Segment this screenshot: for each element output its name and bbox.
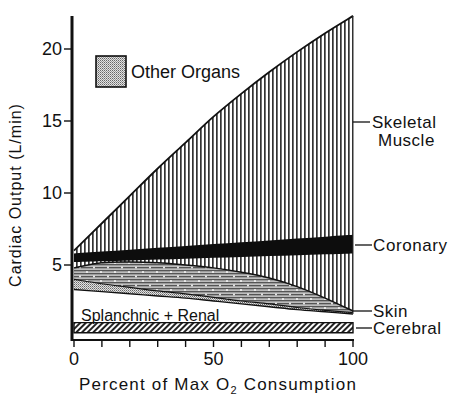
cerebral-area	[74, 323, 353, 333]
x-tick-label: 100	[338, 349, 368, 369]
x-axis-ticks: 050100	[69, 340, 368, 369]
x-axis-label: Percent of Max O2 Consumption	[79, 375, 357, 396]
y-tick-label: 15	[42, 111, 62, 131]
legend-label-other-organs: Other Organs	[131, 62, 240, 82]
x-tick-label: 50	[203, 349, 223, 369]
x-axis-label-subscript: 2	[230, 384, 237, 396]
legend: Other Organs	[96, 56, 240, 87]
y-tick-label: 5	[52, 255, 62, 275]
x-tick-label: 0	[69, 349, 79, 369]
x-axis-label-pre: Percent of Max O	[79, 375, 230, 394]
label-coronary: Coronary	[373, 236, 448, 255]
y-axis-label: Cardiac Output (L/min)	[7, 103, 24, 287]
label-cerebral: Cerebral	[373, 319, 441, 338]
y-tick-label: 20	[42, 39, 62, 59]
x-axis-label-post: Consumption	[238, 375, 357, 394]
y-axis-ticks: 5101520	[42, 39, 72, 275]
legend-swatch-other-organs	[96, 56, 126, 87]
label-skeletal: Skeletal	[372, 113, 436, 132]
label-muscle: Muscle	[378, 131, 435, 150]
cardiac-output-chart: 5101520 050100 Cardiac Output (L/min) Pe…	[0, 0, 461, 405]
label-splanchnic-renal: Splanchnic + Renal	[81, 307, 219, 324]
y-tick-label: 10	[42, 183, 62, 203]
